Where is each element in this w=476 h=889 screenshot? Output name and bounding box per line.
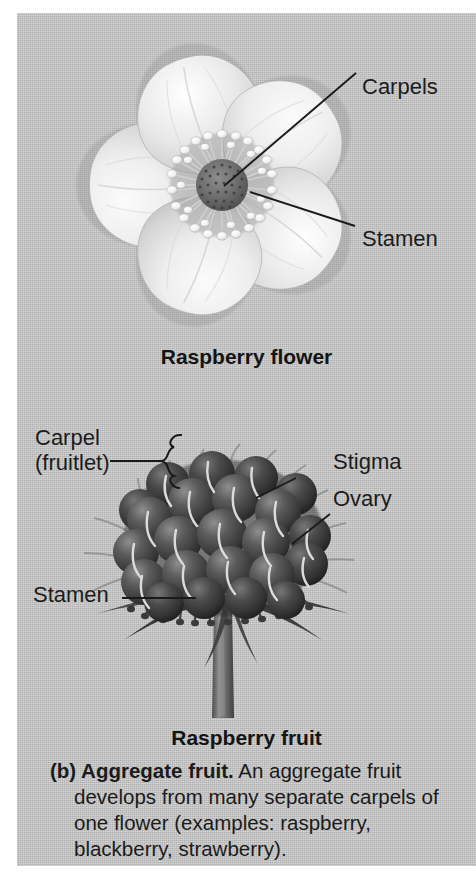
figure-root: Carpels Stamen Raspberry flower xyxy=(0,0,476,889)
label-stamen-flower: Stamen xyxy=(362,227,438,252)
figure-caption: (b) Aggregate fruit. An aggregate fruit … xyxy=(50,758,450,862)
drupelet-cluster xyxy=(113,451,331,622)
caption-lead: (b) Aggregate fruit. xyxy=(50,759,234,782)
label-carpels: Carpels xyxy=(362,75,438,100)
label-carpel-fruitlet: Carpel (fruitlet) xyxy=(35,426,110,475)
raspberry-flower-title: Raspberry flower xyxy=(17,345,476,369)
label-carpel-fruitlet-line1: Carpel xyxy=(35,425,100,450)
label-stamen-fruit: Stamen xyxy=(33,583,109,608)
label-carpel-fruitlet-line2: (fruitlet) xyxy=(35,450,110,475)
carpel-fruitlet-leader xyxy=(110,435,182,488)
figure-panel: Carpels Stamen Raspberry flower xyxy=(17,13,476,866)
label-ovary: Ovary xyxy=(333,487,392,512)
raspberry-flower-illustration xyxy=(17,13,476,330)
raspberry-fruit-title: Raspberry fruit xyxy=(17,726,476,750)
label-stigma: Stigma xyxy=(333,450,401,475)
